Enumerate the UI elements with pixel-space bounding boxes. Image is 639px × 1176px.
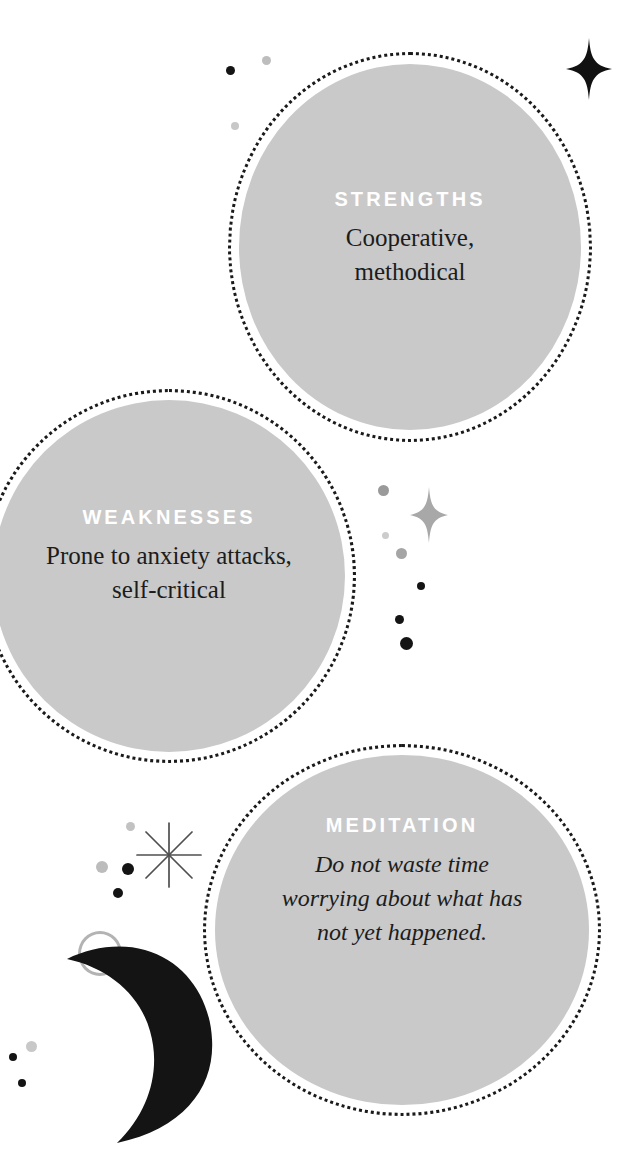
bubble-strengths-body: Cooperative, methodical bbox=[262, 221, 558, 288]
decor-dot bbox=[26, 1041, 37, 1052]
decor-dot bbox=[9, 1053, 17, 1061]
bubble-meditation-body: Do not waste time worrying about what ha… bbox=[231, 847, 573, 949]
decor-dot bbox=[18, 1079, 26, 1087]
decor-dot bbox=[395, 615, 404, 624]
bubble-meditation-content: MEDITATION Do not waste time worrying ab… bbox=[203, 814, 601, 949]
eight-point-starburst-icon bbox=[136, 822, 202, 888]
poster-canvas: STRENGTHS Cooperative, methodical WEAKNE… bbox=[0, 0, 639, 1176]
bubble-strengths: STRENGTHS Cooperative, methodical bbox=[228, 52, 592, 442]
decor-dot bbox=[122, 863, 134, 875]
bubble-strengths-content: STRENGTHS Cooperative, methodical bbox=[228, 188, 592, 288]
decor-dot bbox=[396, 548, 407, 559]
bubble-weaknesses-content: WEAKNESSES Prone to anxiety attacks, sel… bbox=[0, 506, 356, 606]
bubble-weaknesses: WEAKNESSES Prone to anxiety attacks, sel… bbox=[0, 389, 356, 763]
bubble-weaknesses-heading: WEAKNESSES bbox=[0, 506, 350, 529]
bubble-meditation-heading: MEDITATION bbox=[231, 814, 573, 837]
crescent-moon-icon bbox=[46, 943, 213, 1143]
decor-dot bbox=[96, 861, 108, 873]
decor-dot bbox=[378, 485, 389, 496]
bubble-meditation: MEDITATION Do not waste time worrying ab… bbox=[203, 744, 601, 1116]
bubble-strengths-heading: STRENGTHS bbox=[262, 188, 558, 211]
four-point-star-gray-icon bbox=[410, 487, 448, 543]
decor-dot bbox=[400, 637, 413, 650]
bubble-weaknesses-body: Prone to anxiety attacks, self-critical bbox=[0, 539, 350, 606]
decor-dot bbox=[262, 56, 271, 65]
decor-dot bbox=[417, 582, 425, 590]
decor-dot bbox=[113, 888, 123, 898]
decor-dot bbox=[226, 66, 235, 75]
decor-dot bbox=[231, 122, 239, 130]
decor-dot bbox=[126, 822, 135, 831]
decor-dot bbox=[382, 532, 389, 539]
four-point-star-black-icon bbox=[566, 38, 612, 100]
